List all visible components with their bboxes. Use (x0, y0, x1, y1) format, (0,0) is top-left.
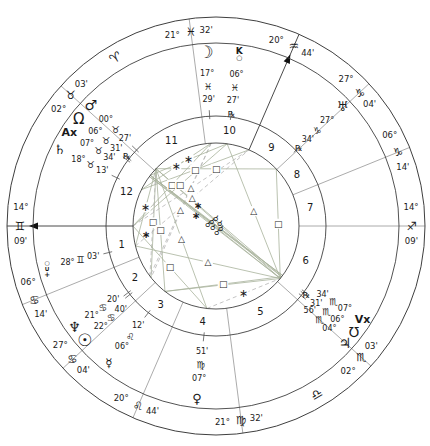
house-cusp-3-degrees: 27° (53, 340, 68, 350)
planet-jupiter-degrees: 04° (322, 324, 336, 333)
natal-chart-wheel: □□□□□□□□□□□△△△△△△△∗∗∗∗∗∗∗☌☌☌☌☌☌☌14°♊09'0… (0, 0, 430, 446)
house-number-3: 3 (157, 299, 163, 310)
planet-anti-vertex-sign-icon: ♉ (94, 145, 103, 156)
planet-uranus-degrees: 27° (320, 116, 334, 125)
house-number-8: 8 (294, 169, 300, 180)
house-cusp-2-degrees: 06° (21, 277, 36, 287)
house-cusp-8-sign-icon: ♑ (392, 145, 402, 159)
planet-venus-minutes: 51' (196, 347, 208, 356)
natal-chart-stage: □□□□□□□□□□□△△△△△△△∗∗∗∗∗∗∗☌☌☌☌☌☌☌14°♊09'0… (0, 0, 430, 446)
house-cusp-11-minutes: 32' (200, 25, 213, 35)
planet-glyph-south-node: ℧ (349, 324, 360, 340)
planet-pluto-sign-icon: ♊ (76, 254, 85, 265)
planet-vertex-sign-icon: ♏ (329, 296, 338, 307)
house-cusp-9-degrees: 27° (339, 74, 354, 84)
planet-chiron-sign-icon: ♓ (230, 82, 239, 93)
house-cusp-4-sign-icon: ♌ (133, 399, 143, 413)
center-aspect-glyph-9: ☌ (205, 220, 210, 229)
planet-glyph-anti-vertex: Ax (62, 126, 78, 139)
house-cusp-5-degrees: 21° (215, 417, 230, 427)
planet-saturn-degrees: 18° (71, 155, 85, 164)
house-number-6: 6 (302, 255, 308, 266)
house-cusp-11-degrees: 21° (165, 30, 180, 40)
house-cusp-7-sign-icon: ♐ (407, 219, 417, 233)
aspect-glyph-square-venus-asc: □ (166, 262, 175, 272)
aspect-glyph-square-mercury-mars: □ (156, 225, 165, 235)
planet-neptune-minutes: 20' (107, 295, 119, 304)
planet-glyph-moon: ☽ (198, 42, 213, 62)
house-cusp-8-minutes: 14' (396, 162, 409, 172)
center-aspect-glyph-1: ∗ (192, 210, 200, 221)
planet-chiron-degrees: 06° (229, 70, 243, 79)
planet-mercury-minutes: 12' (132, 321, 144, 330)
planet-sun-degrees: 22° (94, 322, 108, 331)
planet-venus-sign-icon: ♍ (196, 359, 205, 370)
planet-glyph-saturn: ♄ (54, 142, 66, 157)
center-aspect-glyph-8: ☌ (214, 228, 219, 237)
aspect-glyph-sextile-venus-jupiter: ∗ (239, 287, 248, 300)
house-cusp-12-degrees: 02° (51, 104, 66, 114)
planet-anti-vertex-minutes: 34' (103, 153, 115, 162)
planet-tick-moon (209, 110, 210, 119)
planet-mercury-degrees: 06° (115, 342, 129, 351)
aspect-glyph-trine-venus-mars: △ (178, 234, 185, 244)
planet-neptune-sign-icon: ♋ (98, 302, 107, 313)
house-cusp-4-degrees: 20° (114, 393, 129, 403)
house-number-5: 5 (257, 306, 263, 317)
planet-chiron-minutes: 27' (227, 96, 239, 105)
house-cusp-7-minutes: 09' (405, 236, 418, 246)
house-cusp-12-minutes: 03' (75, 79, 88, 89)
house-cusp-10-sign-icon: ♒ (289, 39, 299, 53)
house-number-10: 10 (223, 125, 236, 136)
planet-uranus-retrograde-icon: ℞ (295, 143, 303, 153)
planet-glyph-mercury: ☿ (105, 356, 112, 370)
planet-glyph-pluto-part2: + (44, 271, 50, 279)
house-number-9: 9 (268, 142, 274, 153)
house-number-7: 7 (307, 202, 313, 213)
house-cusp-5-minutes: 32' (250, 413, 263, 423)
house-cusp-12-sign-icon: ♉ (65, 88, 75, 102)
aspect-glyph-square-saturn-mc: □ (191, 165, 200, 175)
house-cusp-9-minutes: 04' (363, 99, 376, 109)
aspect-glyph-trine-pluto-jupiter: △ (204, 257, 211, 267)
planet-moon-minutes: 29' (202, 95, 214, 104)
planet-south-node-minutes: 31' (310, 299, 322, 308)
aspect-glyph-square-mercury-south-node: □ (219, 279, 228, 289)
planet-mercury-sign-icon: ♌ (126, 331, 135, 342)
planet-moon-sign-icon: ♓ (204, 81, 213, 92)
planet-neptune-degrees: 21° (85, 311, 99, 320)
planet-glyph-mars: ♂ (84, 97, 97, 113)
aspect-glyph-sextile-pluto-mars: ∗ (141, 201, 150, 214)
aspect-glyph-trine-asc-mc: △ (188, 183, 195, 193)
house-cusp-11-sign-icon: ♓ (186, 25, 196, 39)
planet-jupiter-minutes: 56' (304, 306, 316, 315)
house-cusp-10-degrees: 20° (269, 35, 284, 45)
planet-mars-minutes: 27' (119, 134, 131, 143)
house-cusp-1-minutes: 09' (14, 236, 27, 246)
house-cusp-8-degrees: 06° (382, 130, 397, 140)
planet-south-node-sign-icon: ♏ (322, 306, 331, 317)
planet-glyph-uranus: ♅ (337, 99, 349, 114)
planet-vertex-degrees: 07° (338, 304, 352, 313)
house-cusp-4-minutes: 44' (146, 406, 159, 416)
house-cusp-10-minutes: 44' (301, 48, 314, 58)
planet-glyph-venus: ♀ (192, 391, 202, 406)
planet-glyph-chiron-part1: ○ (236, 54, 242, 62)
aspect-glyph-sextile-chiron-north-node: ∗ (184, 153, 193, 166)
house-number-4: 4 (199, 316, 205, 327)
house-cusp-6-sign-icon: ♏ (356, 350, 366, 364)
house-number-1: 1 (119, 239, 125, 250)
planet-anti-vertex-degrees: 07° (80, 139, 94, 148)
house-cusp-9-sign-icon: ♑ (354, 86, 364, 100)
aspect-glyph-square-uranus-jupiter: □ (274, 219, 283, 229)
planet-glyph-vertex: Vx (355, 313, 371, 326)
planet-moon-degrees: 17° (200, 69, 214, 78)
house-cusp-1-sign-icon: ♊ (15, 219, 25, 233)
planet-venus-degrees: 07° (192, 374, 206, 383)
planet-chiron-retrograde-icon: ℞ (227, 109, 235, 119)
planet-north-node-minutes: 31' (110, 144, 122, 153)
planet-north-node-degrees: 06° (88, 127, 102, 136)
house-number-11: 11 (165, 135, 178, 146)
aspect-glyph-sextile-moon-saturn: ∗ (172, 160, 181, 173)
planet-vertex-minutes: 34' (316, 290, 328, 299)
